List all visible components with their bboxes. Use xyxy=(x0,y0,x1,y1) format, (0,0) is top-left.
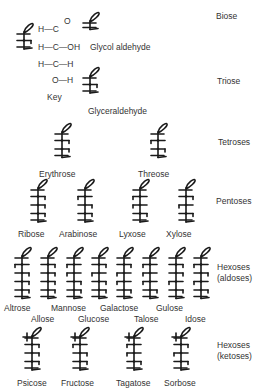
gulose-glyph-icon xyxy=(166,248,192,311)
ribose-glyph-icon xyxy=(28,180,54,234)
sorbose-glyph-icon xyxy=(171,328,197,382)
lyxose-glyph-icon xyxy=(130,180,156,234)
key-row-methylene: H—C—H xyxy=(38,59,73,69)
key-row-hydroxyl: H—C—OH xyxy=(38,42,80,52)
key-label: Key xyxy=(47,92,62,102)
altrose-glyph-icon xyxy=(12,248,38,311)
allose-glyph-icon xyxy=(38,248,64,311)
category-hexoses-ketoses-line1: Hexoses xyxy=(217,340,252,351)
altrose-label: Altrose xyxy=(4,303,30,313)
key-row-aldehyde-left: H—C xyxy=(38,24,59,34)
psicose-glyph-icon xyxy=(22,328,48,382)
mannose-glyph-icon xyxy=(64,248,90,311)
glyceraldehyde-glyph-icon xyxy=(80,68,106,105)
erythrose-label: Erythrose xyxy=(39,169,75,179)
category-hexoses-aldoses-line2: (aldoses) xyxy=(217,273,252,284)
psicose-label: Psicose xyxy=(17,378,47,388)
erythrose-glyph-icon xyxy=(52,124,78,170)
category-hexoses-ketoses: Hexoses (ketoses) xyxy=(217,340,252,362)
category-biose: Biose xyxy=(216,11,237,22)
ribose-label: Ribose xyxy=(18,229,44,239)
gulose-label: Gulose xyxy=(156,303,183,313)
galactose-glyph-icon xyxy=(114,248,140,311)
allose-label: Allose xyxy=(31,314,54,324)
category-hexoses-aldoses: Hexoses (aldoses) xyxy=(217,262,252,284)
category-hexoses-ketoses-line2: (ketoses) xyxy=(217,351,252,362)
mannose-label: Mannose xyxy=(51,303,86,313)
glycol-aldehyde-glyph-icon xyxy=(80,13,106,42)
tagatose-glyph-icon xyxy=(124,328,150,382)
category-tetroses: Tetroses xyxy=(218,137,250,148)
glyceraldehyde-label: Glyceraldehyde xyxy=(88,106,147,116)
category-triose: Triose xyxy=(217,76,240,87)
idose-glyph-icon xyxy=(191,248,217,311)
threose-glyph-icon xyxy=(148,124,174,170)
talose-label: Talose xyxy=(134,314,159,324)
threose-label: Threose xyxy=(138,169,169,179)
xylose-glyph-icon xyxy=(176,180,202,234)
xylose-label: Xylose xyxy=(166,229,192,239)
galactose-label: Galactose xyxy=(100,303,138,313)
idose-label: Idose xyxy=(185,314,206,324)
talose-glyph-icon xyxy=(140,248,166,311)
arabinose-label: Arabinose xyxy=(59,229,97,239)
key-row-terminal-oh: O—H xyxy=(52,75,73,85)
arabinose-glyph-icon xyxy=(75,180,101,234)
category-hexoses-aldoses-line1: Hexoses xyxy=(217,262,252,273)
tagatose-label: Tagatose xyxy=(116,378,151,388)
glucose-glyph-icon xyxy=(89,248,115,311)
sorbose-label: Sorbose xyxy=(164,378,196,388)
category-pentoses: Pentoses xyxy=(216,196,251,207)
key-row-aldehyde-oxygen: O xyxy=(64,16,71,26)
fructose-label: Fructose xyxy=(61,378,94,388)
key-glyph xyxy=(14,24,40,61)
fructose-glyph-icon xyxy=(70,328,96,382)
lyxose-label: Lyxose xyxy=(119,229,146,239)
glycol-aldehyde-label: Glycol aldehyde xyxy=(90,42,150,52)
glucose-label: Glucose xyxy=(78,314,109,324)
